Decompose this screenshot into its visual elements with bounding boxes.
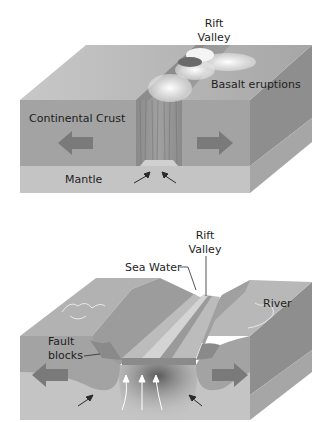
rift-diagram: Rift Valley Basalt eruptions Continental… [0,0,335,422]
rift-valley-label: Rift [205,17,224,30]
lava-vent [178,57,202,67]
oceanic-rift-diagram: Rift Valley Sea Water River Fault blocks [20,229,312,420]
continental-crust-label: Continental Crust [29,112,126,125]
mantle-label: Mantle [65,173,103,186]
rift-floor-edge [122,358,196,365]
rift-section [136,100,182,166]
sea-water-label: Sea Water [125,261,182,274]
magma-notch [140,160,178,166]
fault-blocks-label: Fault [48,335,75,348]
basalt-eruptions-label: Basalt eruptions [211,78,301,91]
rift-valley-label-bottom-2: Valley [189,243,222,256]
rift-valley-label-2: Valley [198,31,231,44]
crust-layer [20,100,250,166]
fault-blocks-label-2: blocks [48,349,83,362]
mantle-layer [20,166,250,193]
continental-rift-diagram: Rift Valley Basalt eruptions Continental… [20,17,312,193]
rift-valley-label-bottom: Rift [196,229,215,242]
river-label: River [263,297,292,310]
sea-water-leader [180,267,196,290]
